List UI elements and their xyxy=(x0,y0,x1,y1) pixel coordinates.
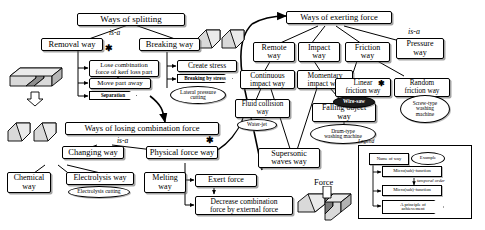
node-label: Breaking way xyxy=(145,40,194,49)
principle-label: Separation xyxy=(101,93,125,98)
node-label: Random friction way xyxy=(404,80,441,95)
node-lose-combination-force[interactable]: Lose combination force of kerf loss part xyxy=(89,60,159,77)
block-illustration-two-parts xyxy=(196,26,250,64)
force-label: Force xyxy=(314,177,333,187)
diagram-canvas: Ways of splitting is-a Removal way ✱ Bre… xyxy=(0,0,485,230)
node-move-part-away[interactable]: Move part away xyxy=(89,78,151,89)
principle-label: Breaking by stress xyxy=(184,76,226,81)
node-chemical-way[interactable]: Chemical way xyxy=(7,172,51,193)
principle-separation[interactable]: Separation xyxy=(89,91,137,100)
node-label: Remote way xyxy=(261,44,288,60)
legend-principle: A principle of achievement xyxy=(382,200,444,214)
node-supersonic-waves-way[interactable]: Supersonic waves way xyxy=(258,148,320,168)
example-electrolysis-cutting[interactable]: Electrolysis cutting xyxy=(68,186,130,198)
example-label: Electrolysis cutting xyxy=(77,189,120,194)
node-label: Impact way xyxy=(307,44,331,60)
node-changing-way[interactable]: Changing way xyxy=(62,146,124,159)
star-marker-removal: ✱ xyxy=(105,43,113,53)
legend-box: Name of way Example Micro(sub)-function … xyxy=(358,145,472,219)
node-fluid-collision-way[interactable]: Fluid collision way xyxy=(235,99,290,118)
node-continuous-impact-way[interactable]: Continuous impact way xyxy=(240,70,295,89)
example-wire-saw[interactable]: Wire-saw xyxy=(333,96,375,108)
node-label: Ways of exerting force xyxy=(299,13,378,22)
node-label: Decrease combination force by external f… xyxy=(209,198,279,213)
node-label: Move part away xyxy=(96,80,143,87)
node-remote-way[interactable]: Remote way xyxy=(253,42,295,62)
legend-micro-function-2: Micro(sub)-function xyxy=(382,185,442,196)
node-label: Supersonic waves way xyxy=(270,150,308,166)
legend-example: Example xyxy=(411,152,445,165)
node-label: Electrolysis way xyxy=(72,174,127,182)
node-label: Melting way xyxy=(151,174,178,190)
node-label: Physical force way xyxy=(149,148,216,157)
node-label: Changing way xyxy=(67,148,118,157)
node-removal-way[interactable]: Removal way xyxy=(41,38,103,51)
example-water-jet[interactable]: Water-jet xyxy=(237,119,277,131)
node-create-stress[interactable]: Create stress xyxy=(177,60,237,72)
node-label: Removal way xyxy=(48,40,97,49)
node-ways-of-losing-combination-force[interactable]: Ways of losing combination force xyxy=(65,122,219,135)
star-marker-physical: ✱ xyxy=(206,135,214,145)
node-decrease-combination-force[interactable]: Decrease combination force by external f… xyxy=(195,196,293,215)
legend-name-of-way: Name of way xyxy=(369,153,409,165)
node-impact-way[interactable]: Impact way xyxy=(298,42,340,62)
legend-title: Legend xyxy=(358,138,374,144)
node-label: Friction way xyxy=(354,44,381,60)
isa-label-lower-left: is-a xyxy=(117,136,128,145)
example-label: Screw-type washing machine xyxy=(413,101,438,117)
principle-breaking-by-stress[interactable]: Breaking by stress xyxy=(177,74,233,83)
node-label: Exert force xyxy=(207,176,245,184)
star-marker-linear-friction: ✱ xyxy=(378,79,385,88)
node-label: Pressure way xyxy=(405,40,434,56)
legend-temporal-order: temporal order xyxy=(417,178,445,183)
example-screw-type-washing-machine[interactable]: Screw-type washing machine xyxy=(400,95,450,123)
example-label: Drum-type washing machine xyxy=(324,129,362,140)
example-label: Lateral pressure cutting xyxy=(180,90,216,101)
node-label: Create stress xyxy=(187,62,227,70)
node-pressure-way[interactable]: Pressure way xyxy=(396,38,444,59)
node-exert-force[interactable]: Exert force xyxy=(195,174,257,187)
node-label: Continuous impact way xyxy=(249,72,286,87)
block-illustration-force xyxy=(295,186,367,230)
isa-label-right: is-a xyxy=(408,27,420,36)
isa-label-left: is-a xyxy=(109,28,120,37)
node-ways-of-exerting-force[interactable]: Ways of exerting force xyxy=(286,11,392,24)
node-physical-force-way[interactable]: Physical force way xyxy=(146,146,218,159)
example-label: Wire-saw xyxy=(343,99,365,104)
node-label: Lose combination force of kerf loss part xyxy=(95,62,154,75)
node-label: Ways of splitting xyxy=(99,15,162,24)
example-label: Water-jet xyxy=(247,122,267,127)
node-electrolysis-way[interactable]: Electrolysis way xyxy=(66,172,134,185)
node-label: Linear friction way xyxy=(345,80,382,95)
node-ways-of-splitting[interactable]: Ways of splitting xyxy=(77,13,185,26)
node-label: Fluid collision way xyxy=(241,101,285,116)
node-friction-way[interactable]: Friction way xyxy=(345,42,390,62)
legend-micro-function-1: Micro(sub)-function xyxy=(382,166,442,177)
block-illustration-two-parts-lower xyxy=(6,120,64,156)
node-melting-way[interactable]: Melting way xyxy=(144,172,186,193)
example-lateral-pressure-cutting[interactable]: Lateral pressure cutting xyxy=(170,86,226,104)
node-label: Ways of losing combination force xyxy=(84,124,201,133)
node-label: Chemical way xyxy=(13,174,46,190)
block-illustration-split-left xyxy=(6,58,68,112)
node-breaking-way[interactable]: Breaking way xyxy=(139,38,200,51)
